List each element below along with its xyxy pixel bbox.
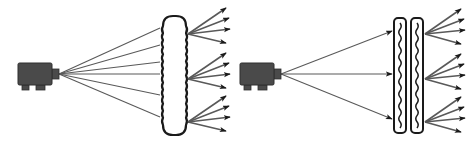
projector-foot-1 <box>244 85 251 90</box>
projector-body <box>18 63 52 85</box>
projector-lens-icon <box>274 69 281 79</box>
thin-diffuser-second <box>411 18 423 133</box>
optics-diagram-figure <box>0 0 472 151</box>
projector-body <box>240 63 274 85</box>
projector-foot-2 <box>36 85 45 90</box>
thin-diffuser-first <box>394 18 406 133</box>
projector-foot-2 <box>258 85 267 90</box>
projector-foot-1 <box>22 85 29 90</box>
projector-lens-icon <box>52 69 59 79</box>
thick-diffuser <box>162 16 187 135</box>
diagram-canvas <box>0 0 472 151</box>
